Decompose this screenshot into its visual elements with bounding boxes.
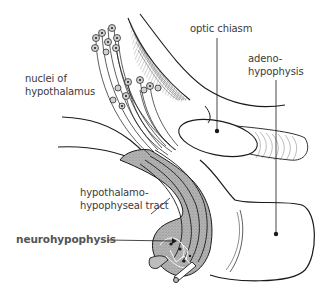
label-line: hypothalamo- — [80, 187, 169, 200]
label-hypothalamo-hypophyseal-tract: hypothalamo- hypophyseal tract — [80, 187, 169, 212]
pituitary-diagram: nuclei of hypothalamus optic chiasm aden… — [0, 0, 332, 300]
label-line: nuclei of — [25, 73, 95, 86]
adenohypophysis-shape — [200, 160, 314, 281]
label-nuclei-of-hypothalamus: nuclei of hypothalamus — [25, 73, 95, 98]
optic-chiasm-shape — [175, 106, 307, 163]
label-line: hypothalamus — [25, 86, 95, 99]
diagram-artwork — [0, 0, 332, 300]
label-line: hypophyseal tract — [80, 200, 169, 213]
label-optic-chiasm: optic chiasm — [190, 23, 252, 36]
label-neurohypophysis: neurohypophysis — [16, 233, 116, 246]
label-line: neurohypophysis — [16, 233, 116, 246]
label-line: adeno- — [248, 53, 304, 66]
label-line: hypophysis — [248, 66, 304, 79]
label-adenohypophysis: adeno- hypophysis — [248, 53, 304, 78]
label-line: optic chiasm — [190, 23, 252, 36]
